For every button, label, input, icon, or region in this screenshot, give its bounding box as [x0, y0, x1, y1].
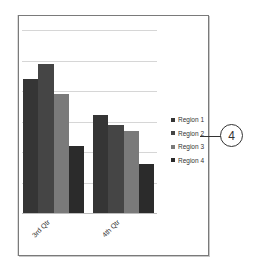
legend-item-region-1: Region 1: [171, 113, 204, 127]
chart-frame: 3rd Qtr4th Qtr Region 1 Region 2 Region …: [18, 15, 209, 256]
gridline: [22, 61, 157, 62]
bar-region-1-4th-qtr: [93, 115, 108, 213]
callout-leader-line: [200, 136, 221, 137]
bar-region-1-3rd-qtr: [23, 79, 38, 213]
bar-region-2-4th-qtr: [108, 125, 123, 213]
bar-region-4-3rd-qtr: [69, 146, 84, 213]
x-axis-line: [22, 213, 157, 214]
category-label: 3rd Qtr: [30, 218, 50, 238]
callout-number-badge: 4: [220, 124, 243, 147]
legend-label: Region 4: [178, 157, 204, 164]
legend-swatch-icon: [171, 145, 175, 149]
legend-item-region-2: Region 2: [171, 127, 204, 141]
legend-label: Region 3: [178, 143, 204, 150]
legend-label: Region 1: [178, 116, 204, 123]
bar-region-3-3rd-qtr: [54, 94, 69, 213]
legend-item-region-3: Region 3: [171, 140, 204, 154]
legend-swatch-icon: [171, 131, 175, 135]
callout-number: 4: [228, 129, 235, 143]
bar-region-4-4th-qtr: [139, 164, 154, 213]
bar-area: [19, 16, 169, 213]
category-label: 4th Qtr: [100, 218, 120, 238]
legend: Region 1 Region 2 Region 3 Region 4: [171, 113, 204, 167]
gridline: [22, 30, 157, 31]
legend-swatch-icon: [171, 118, 175, 122]
legend-item-region-4: Region 4: [171, 154, 204, 168]
bar-region-3-4th-qtr: [124, 131, 139, 213]
legend-swatch-icon: [171, 158, 175, 162]
bar-region-2-3rd-qtr: [38, 64, 53, 213]
